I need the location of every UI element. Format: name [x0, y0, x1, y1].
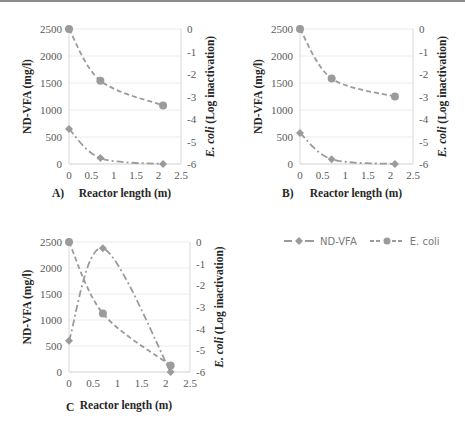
- y-tick-label: 1500: [40, 77, 63, 89]
- gridlines: [69, 29, 181, 164]
- diamond-marker: [159, 160, 167, 168]
- x-axis-title: Reactor length (m): [79, 187, 172, 200]
- x-tick-label: 0: [66, 169, 72, 181]
- diamond-marker: [99, 244, 107, 252]
- legend-label-nd-vfa: ND-VFA: [320, 236, 357, 247]
- y-tick-label: 2500: [40, 236, 63, 248]
- x-tick-label: 1: [111, 169, 117, 181]
- y-axis-title: ND-VFA (mg/l): [21, 59, 34, 134]
- y-tick-label: 2000: [271, 50, 294, 62]
- x-tick-label: 0.5: [85, 169, 99, 181]
- y-tick-label: 1000: [40, 104, 63, 116]
- y-axis-title: ND-VFA (mg/l): [21, 269, 34, 344]
- y2-tick-label: -5: [187, 136, 197, 148]
- y-tick-label: 1500: [271, 77, 294, 89]
- x-tick-label: 0.5: [316, 169, 330, 181]
- panel-label: C: [66, 401, 74, 413]
- x-tick-label: 0: [297, 169, 303, 181]
- y-tick-label: 1000: [40, 314, 63, 326]
- y2-tick-label: -3: [196, 301, 206, 313]
- chart-panel-c: 05001000150020002500-6-5-4-3-2-1000.511.…: [0, 215, 250, 429]
- y2-tick-label: -1: [196, 258, 205, 270]
- diamond-marker: [96, 154, 104, 162]
- y2-tick-label: -1: [187, 46, 196, 58]
- y2-tick-label: 0: [187, 23, 193, 35]
- series-nd-vfa: [65, 125, 167, 168]
- circle-marker: [65, 238, 73, 246]
- x-tick-label: 0: [66, 377, 72, 389]
- chart-legend: ND-VFA E. coli: [283, 233, 452, 249]
- y2-tick-label: -5: [419, 136, 429, 148]
- circle-dashed-line-icon: [369, 236, 405, 246]
- y-tick-label: 0: [57, 366, 63, 378]
- series-nd-vfa: [65, 244, 175, 376]
- y2-tick-label: -5: [196, 344, 206, 356]
- y2-axis-title: E. coli (Log inactivation): [204, 36, 217, 159]
- x-tick-label: 2.5: [183, 377, 197, 389]
- circle-marker: [328, 75, 336, 83]
- circle-marker: [391, 93, 399, 101]
- y2-tick-label: -6: [196, 366, 206, 378]
- y2-tick-label: -4: [187, 113, 197, 125]
- y-tick-label: 2000: [40, 262, 63, 274]
- y-tick-label: 0: [288, 158, 294, 170]
- circle-marker: [159, 102, 167, 110]
- y2-tick-label: 0: [419, 23, 425, 35]
- x-tick-label: 0.5: [86, 377, 100, 389]
- circle-marker: [296, 25, 304, 33]
- x-axis-title: Reactor length (m): [80, 399, 173, 412]
- x-tick-label: 1: [342, 169, 348, 181]
- y2-tick-label: 0: [196, 236, 202, 248]
- y2-tick-label: -4: [196, 323, 206, 335]
- panel-label: B): [282, 187, 294, 200]
- y2-axis-title: E. coli (Log inactivation): [213, 246, 226, 369]
- gridlines: [69, 242, 190, 372]
- x-tick-label: 1.5: [135, 377, 149, 389]
- chart-panel-b: 05001000150020002500-6-5-4-3-2-1000.511.…: [232, 0, 465, 215]
- series-nd-vfa: [296, 129, 399, 168]
- x-tick-label: 2: [388, 169, 394, 181]
- x-tick-label: 1.5: [361, 169, 375, 181]
- diamond-dash-dot-line-icon: [283, 236, 315, 246]
- y2-tick-label: -4: [419, 113, 429, 125]
- y2-tick-label: -1: [419, 46, 428, 58]
- y-tick-label: 500: [277, 131, 294, 143]
- x-tick-label: 2.5: [174, 169, 188, 181]
- series-e-coli: [65, 238, 175, 370]
- y2-tick-label: -3: [419, 91, 429, 103]
- diamond-marker: [328, 155, 336, 163]
- series-e-coli: [65, 25, 167, 110]
- circle-marker: [65, 25, 73, 33]
- y-tick-label: 2500: [271, 23, 294, 35]
- y-tick-label: 1000: [271, 104, 294, 116]
- circle-marker: [167, 362, 175, 370]
- y2-tick-label: -2: [196, 279, 205, 291]
- diamond-marker: [65, 337, 73, 345]
- y2-tick-label: -6: [187, 158, 197, 170]
- y-tick-label: 2500: [40, 23, 63, 35]
- y2-tick-label: -6: [419, 158, 429, 170]
- legend-item-nd-vfa: ND-VFA: [283, 236, 357, 247]
- y-tick-label: 0: [57, 158, 63, 170]
- y2-tick-label: -2: [419, 68, 428, 80]
- x-tick-label: 2.5: [406, 169, 420, 181]
- x-axis-title: Reactor length (m): [310, 187, 403, 200]
- y-axis-title: ND-VFA (mg/l): [252, 59, 265, 134]
- chart-panel-a: 05001000150020002500-6-5-4-3-2-1000.511.…: [0, 0, 232, 215]
- circle-marker: [99, 310, 107, 318]
- x-tick-label: 1: [115, 377, 121, 389]
- legend-item-e-coli: E. coli: [369, 236, 440, 247]
- diamond-marker: [391, 160, 399, 168]
- y2-tick-label: -3: [187, 91, 197, 103]
- y2-axis-title: E. coli (Log inactivation): [436, 36, 449, 159]
- series-e-coli: [296, 25, 399, 101]
- y-tick-label: 500: [46, 340, 63, 352]
- circle-marker: [96, 77, 104, 85]
- x-tick-label: 2: [156, 169, 162, 181]
- y2-tick-label: -2: [187, 68, 196, 80]
- panel-label: A): [52, 187, 64, 200]
- y-tick-label: 500: [46, 131, 63, 143]
- y-tick-label: 1500: [40, 288, 63, 300]
- x-tick-label: 1.5: [129, 169, 143, 181]
- legend-label-e-coli: E. coli: [410, 236, 440, 247]
